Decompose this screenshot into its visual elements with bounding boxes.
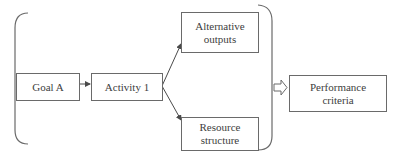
activity-1-label: Activity 1 [105,81,149,94]
arrow-activity-to-outputs [162,44,181,86]
hollow-arrow-icon [274,80,287,95]
alternative-outputs-label-line1: Alternative [195,20,244,33]
performance-criteria-label-line2: criteria [322,94,353,107]
resource-structure-box: Resource structure [181,117,259,151]
alternative-outputs-label-line2: outputs [204,33,236,46]
resource-structure-label-line1: Resource [200,121,241,134]
goal-a-label: Goal A [32,81,63,94]
alternative-outputs-box: Alternative outputs [181,12,259,53]
goal-a-box: Goal A [16,73,80,101]
performance-criteria-box: Performance criteria [289,75,387,112]
arrow-activity-to-resource [162,86,181,120]
right-bracket [258,5,272,150]
resource-structure-label-line2: structure [201,134,239,147]
activity-1-box: Activity 1 [91,73,163,101]
performance-criteria-label-line1: Performance [310,81,366,94]
